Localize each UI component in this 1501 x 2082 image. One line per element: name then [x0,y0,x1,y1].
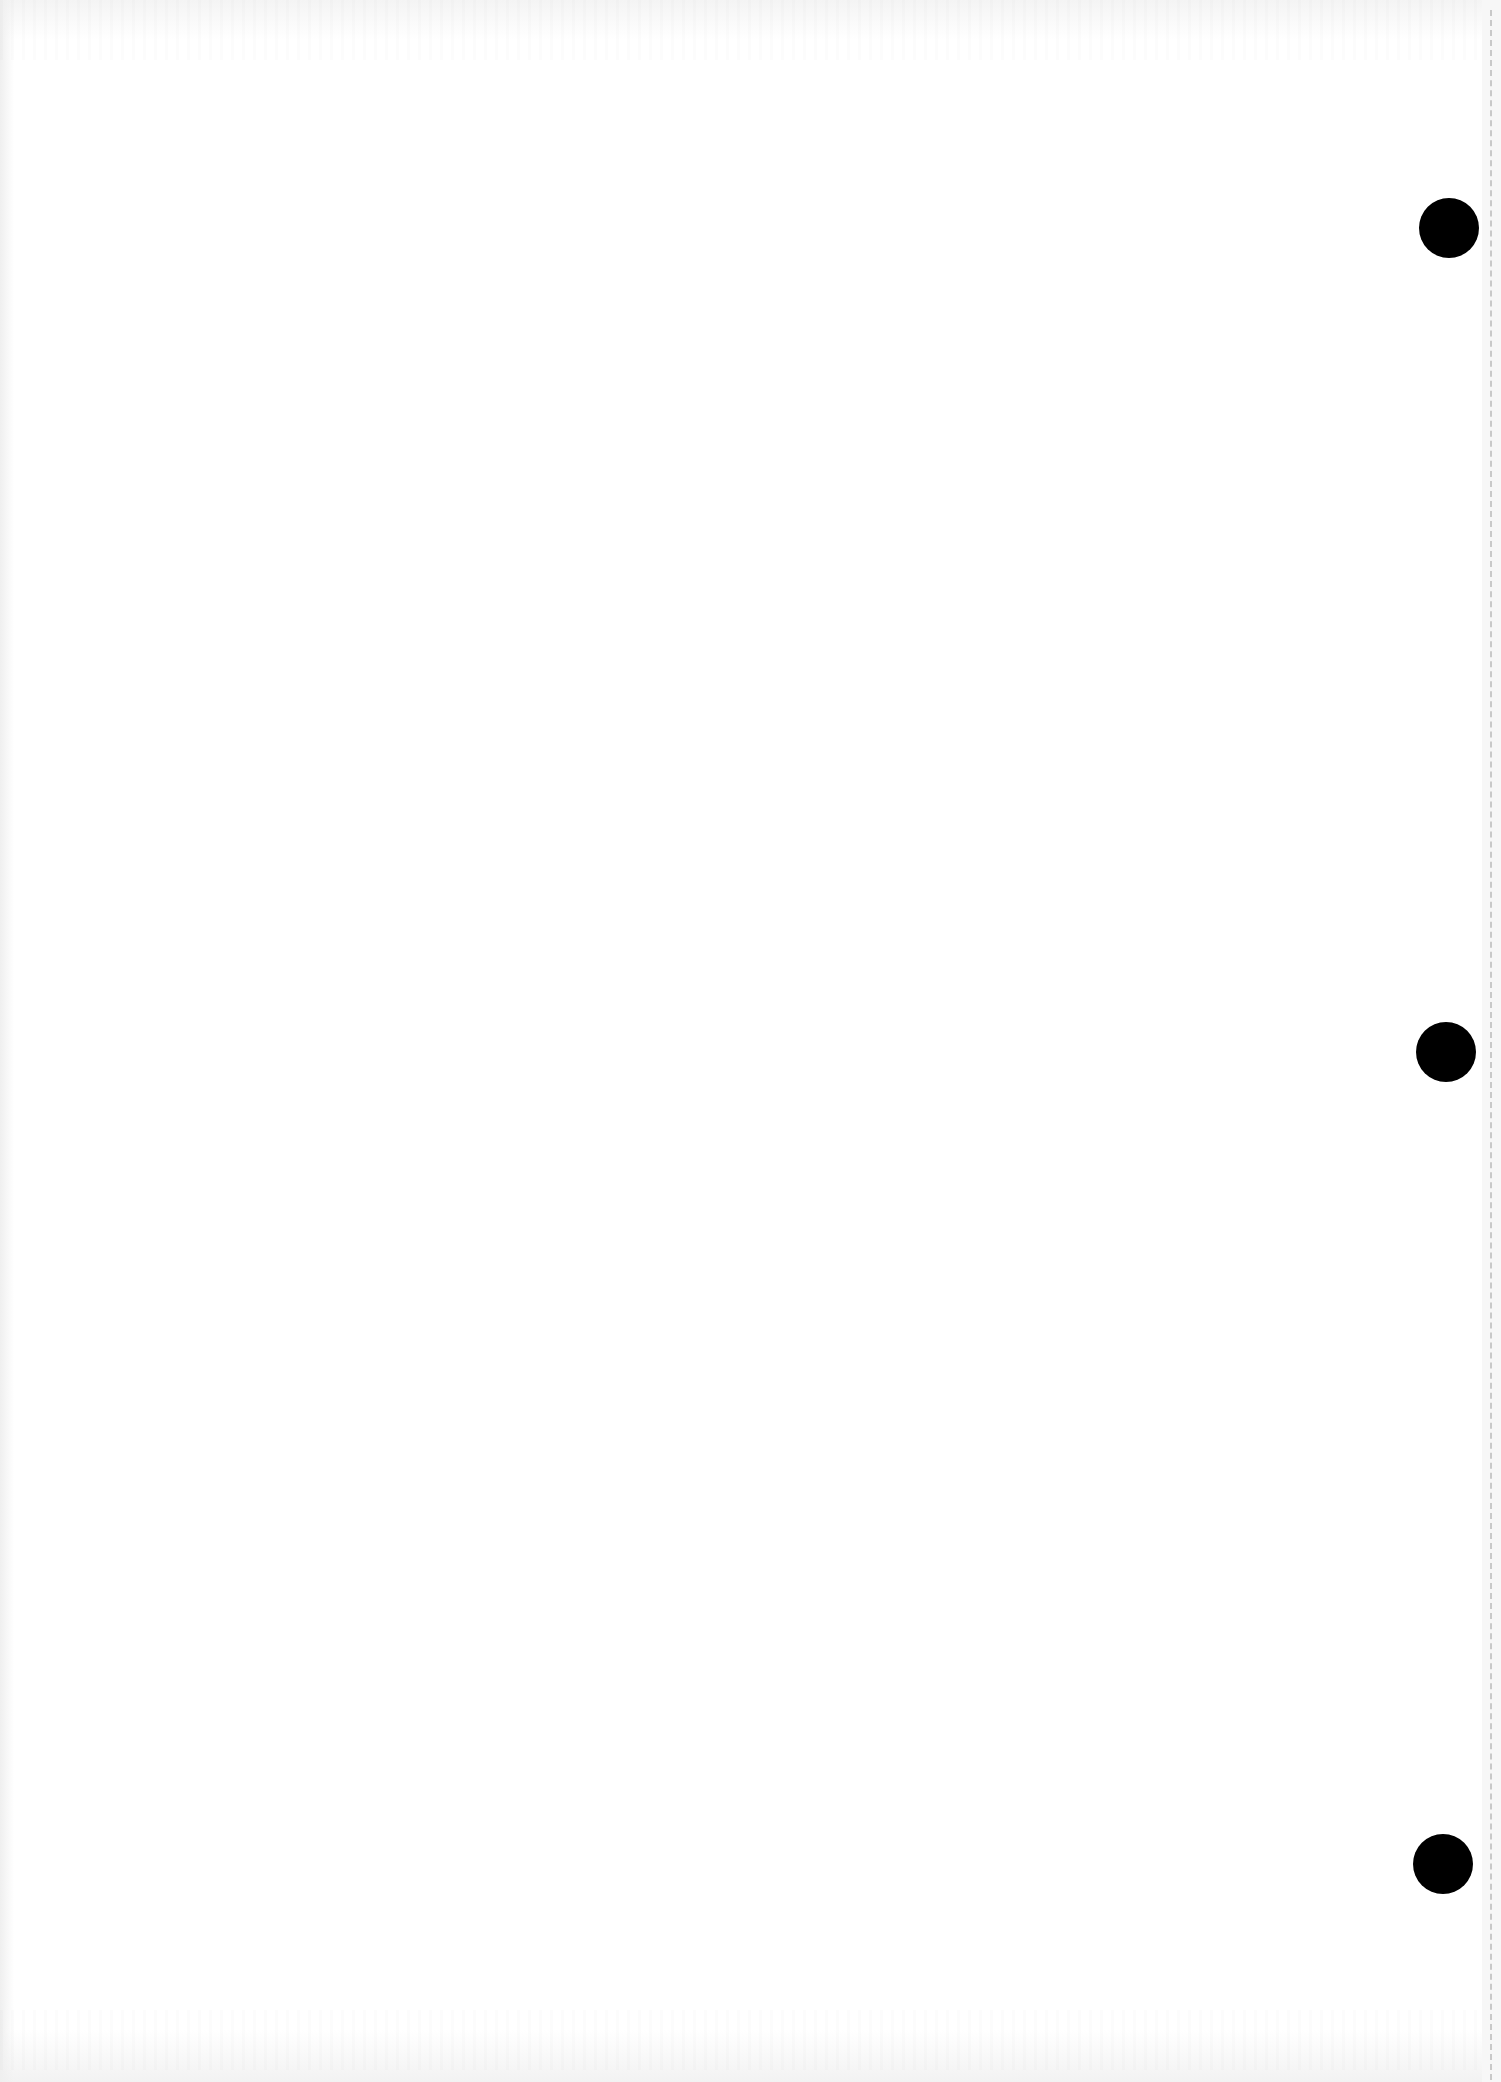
perforation-line [1490,10,1492,2080]
left-edge-shadow [0,0,14,2082]
scanned-page [0,0,1501,2082]
punch-hole-top [1419,198,1479,258]
top-bleed-through [0,0,1482,60]
bottom-bleed-through [0,2010,1482,2070]
punch-hole-bottom [1413,1834,1473,1894]
punch-hole-middle [1416,1022,1476,1082]
